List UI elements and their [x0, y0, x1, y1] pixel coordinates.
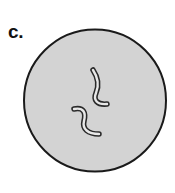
microscope-field-illustration: [0, 0, 175, 193]
figure-panel: c.: [0, 0, 175, 193]
